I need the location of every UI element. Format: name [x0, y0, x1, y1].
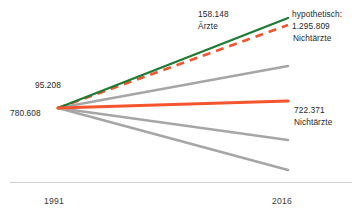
reference-line-middle	[58, 108, 288, 140]
hypothetisch-value-label: 1.295.809	[292, 21, 330, 32]
reference-line-lower	[58, 108, 288, 170]
x-axis-tick-label-start: 1991	[44, 196, 64, 207]
hypothetisch-series-label: Nichtärzte	[293, 33, 331, 44]
start-value-nichtaerzte-label: 780.608	[10, 108, 41, 119]
aerzte-end-series-label: Ärzte	[198, 21, 218, 32]
nichtaerzte-end-value-label: 722.371	[294, 105, 325, 116]
start-value-aerzte-label: 95.208	[35, 80, 61, 91]
x-axis-tick-label-end: 2016	[272, 196, 292, 207]
series-line-aerzte	[58, 18, 288, 108]
hypothetisch-title-label: hypothetisch:	[292, 9, 342, 20]
aerzte-end-value-label: 158.148	[198, 9, 229, 20]
nichtaerzte-end-series-label: Nichtärzte	[294, 117, 332, 128]
chart-container: 158.148 Ärzte hypothetisch: 1.295.809 Ni…	[0, 0, 364, 216]
